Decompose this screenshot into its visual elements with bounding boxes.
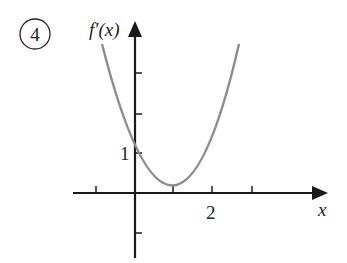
problem-number-badge: 4 xyxy=(20,19,50,49)
x-axis xyxy=(73,186,328,200)
y-axis xyxy=(128,21,142,258)
y-tick-label-1: 1 xyxy=(120,143,130,164)
derivative-curve xyxy=(102,44,239,186)
x-axis-arrow-icon xyxy=(312,186,328,200)
x-tick-label-2: 2 xyxy=(206,202,216,223)
x-axis-label: x xyxy=(317,199,327,220)
y-axis-label: f′(x) xyxy=(89,19,120,41)
graph: 4 f′(x) 1 2 x xyxy=(0,0,347,263)
problem-number: 4 xyxy=(30,24,40,45)
y-axis-arrow-icon xyxy=(128,21,142,37)
